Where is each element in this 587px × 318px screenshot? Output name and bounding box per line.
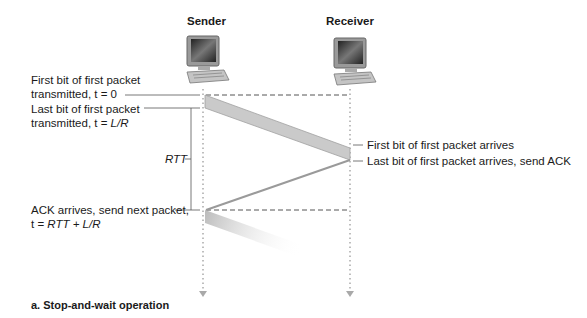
figure-caption: a. Stop-and-wait operation [31,299,169,311]
sender-header: Sender [187,15,226,27]
receiver-computer-icon [334,38,376,85]
first-bit-arrives-label: First bit of first packet arrives [367,138,514,152]
last-bit-arrives-label: Last bit of first packet arrives, send A… [367,154,571,168]
packet-band [205,95,350,160]
receiver-timeline-arrow [346,291,354,297]
sender-computer-icon [187,36,229,83]
ack-line [206,160,350,210]
ack-arrives-label: ACK arrives, send next packet, t = RTT +… [31,203,189,231]
sender-timeline-arrow [199,291,207,297]
first-bit-transmitted-label: First bit of first packet transmitted, t… [31,73,140,101]
last-bit-transmitted-label: Last bit of first packet transmitted, t … [31,102,140,130]
rtt-label: RTT [165,152,187,166]
receiver-header: Receiver [326,15,374,27]
next-packet-band [205,210,305,259]
